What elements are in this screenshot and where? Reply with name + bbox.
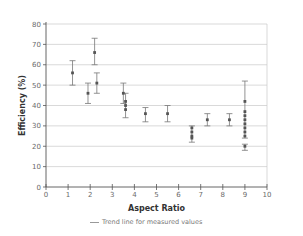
legend-label: Trend line for measured values bbox=[102, 218, 202, 226]
x-tick-label: 2 bbox=[88, 191, 92, 199]
y-tick-label: 20 bbox=[32, 143, 41, 151]
y-tick-label: 80 bbox=[32, 21, 41, 29]
data-point bbox=[244, 118, 247, 121]
y-tick-label: 40 bbox=[32, 102, 41, 110]
legend-line-icon bbox=[90, 222, 99, 223]
data-point bbox=[244, 110, 247, 113]
data-point bbox=[244, 127, 247, 130]
data-point bbox=[95, 82, 98, 85]
x-tick-label: 5 bbox=[154, 191, 158, 199]
data-point bbox=[124, 100, 127, 103]
y-tick-label: 0 bbox=[37, 184, 41, 192]
data-point bbox=[244, 122, 247, 125]
x-tick-label: 4 bbox=[132, 191, 137, 199]
y-tick-label: 50 bbox=[32, 82, 41, 90]
data-point bbox=[244, 145, 247, 148]
y-tick-label: 10 bbox=[32, 163, 41, 171]
y-tick-label: 60 bbox=[32, 61, 41, 69]
data-point bbox=[122, 92, 125, 95]
data-point bbox=[244, 131, 247, 134]
x-tick-label: 8 bbox=[221, 191, 225, 199]
x-tick-label: 7 bbox=[198, 191, 202, 199]
data-point bbox=[244, 100, 247, 103]
data-point bbox=[244, 135, 247, 138]
x-tick-label: 9 bbox=[243, 191, 247, 199]
data-point bbox=[190, 127, 193, 130]
y-axis-title: Efficiency (%) bbox=[18, 75, 27, 136]
y-tick-label: 70 bbox=[32, 41, 41, 49]
data-point bbox=[87, 92, 90, 95]
data-point bbox=[93, 51, 96, 54]
data-point bbox=[71, 72, 74, 75]
data-point bbox=[190, 131, 193, 134]
data-point bbox=[166, 112, 169, 115]
data-point bbox=[244, 114, 247, 117]
x-tick-label: 6 bbox=[176, 191, 181, 199]
data-point bbox=[190, 137, 193, 140]
x-tick-label: 0 bbox=[44, 191, 48, 199]
legend: Trend line for measured values bbox=[90, 218, 202, 226]
data-point bbox=[124, 108, 127, 111]
plot-area: 01020304050607080012345678910Aspect Rati… bbox=[0, 0, 303, 236]
x-tick-label: 10 bbox=[263, 191, 272, 199]
data-point bbox=[206, 118, 209, 121]
y-tick-label: 30 bbox=[32, 122, 41, 130]
x-tick-label: 3 bbox=[110, 191, 114, 199]
chart: 01020304050607080012345678910Aspect Rati… bbox=[0, 0, 303, 236]
data-point bbox=[124, 104, 127, 107]
x-tick-label: 1 bbox=[66, 191, 70, 199]
data-point bbox=[228, 118, 231, 121]
data-point bbox=[144, 112, 147, 115]
x-axis-title: Aspect Ratio bbox=[128, 204, 186, 213]
